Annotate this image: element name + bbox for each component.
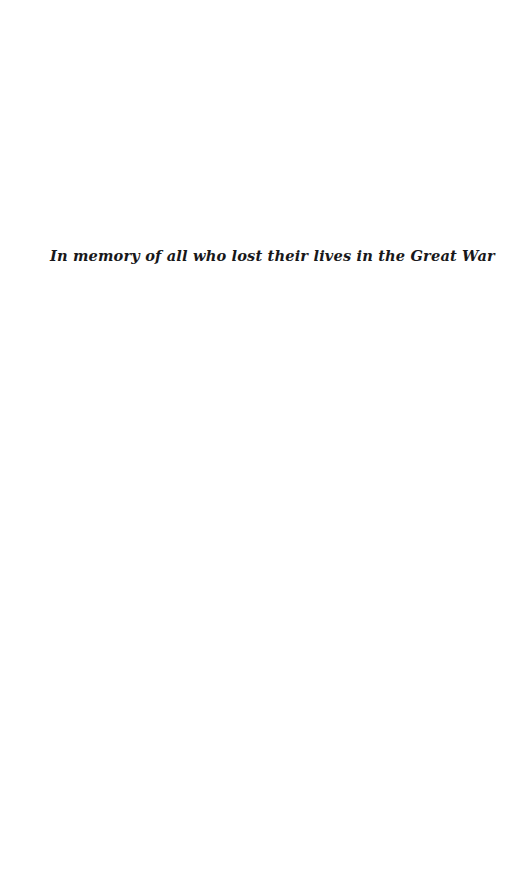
document-page: In memory of all who lost their lives in… — [0, 0, 525, 886]
dedication-text: In memory of all who lost their lives in… — [50, 246, 450, 266]
page-top-blank-area — [0, 0, 525, 246]
page-bottom-blank-area — [0, 272, 525, 886]
dedication-block: In memory of all who lost their lives in… — [50, 246, 450, 272]
